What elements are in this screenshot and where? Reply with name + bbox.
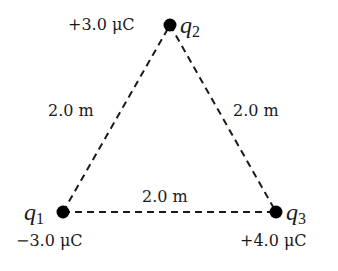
charge-label-q3: q3	[286, 200, 306, 227]
charge-value-q1: −3.0 μC	[16, 233, 83, 249]
charge-triangle-diagram: +3.0 μC q2 2.0 m 2.0 m 2.0 m q1 −3.0 μC …	[0, 0, 338, 271]
charge-value-q3: +4.0 μC	[240, 233, 307, 249]
distance-label-q1-q3: 2.0 m	[142, 189, 188, 205]
charge-label-q2: q2	[180, 13, 200, 40]
charge-dot-q2	[164, 19, 177, 32]
charge-value-q2: +3.0 μC	[68, 17, 135, 33]
charge-dot-q1	[57, 206, 70, 219]
distance-label-q2-q3: 2.0 m	[233, 103, 279, 119]
charge-label-q1: q1	[24, 200, 44, 227]
distance-label-q1-q2: 2.0 m	[48, 103, 94, 119]
charge-dot-q3	[270, 206, 283, 219]
